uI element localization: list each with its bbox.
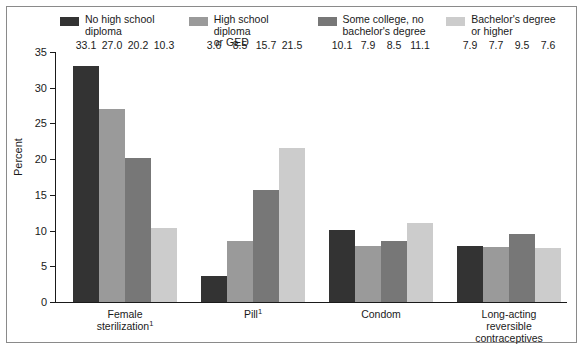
bar-wrap: 21.5 [279, 52, 305, 302]
legend-item-label: No high school diploma [85, 14, 154, 37]
bar-value-label: 10.3 [154, 39, 174, 51]
y-tick-label: 35 [35, 46, 47, 58]
bar-value-label: 8.5 [387, 39, 402, 51]
y-tick-mark [50, 231, 55, 232]
legend-swatch-icon [189, 17, 208, 26]
y-tick-mark [50, 52, 55, 53]
bar-wrap: 33.1 [73, 52, 99, 302]
y-tick-mark [50, 266, 55, 267]
x-axis-group-label: Pill1 [244, 308, 262, 320]
bar-value-label: 10.1 [332, 39, 352, 51]
bar-group-female-sterilization: 33.1 27.0 20.2 10.3 Female sterilization… [73, 52, 177, 302]
bar[interactable] [227, 241, 253, 302]
bar-group-bars: 33.1 27.0 20.2 10.3 [73, 52, 177, 302]
bar-wrap: 7.6 [535, 52, 561, 302]
y-tick-label: 15 [35, 189, 47, 201]
bar-value-label: 27.0 [102, 39, 122, 51]
bar[interactable] [99, 109, 125, 302]
bar-group-pill: 3.6 8.5 15.7 21.5 Pill1 [201, 52, 305, 302]
bar-wrap: 7.9 [355, 52, 381, 302]
x-axis-group-label: Condom [361, 308, 401, 320]
y-tick-label: 5 [41, 260, 47, 272]
bar-group-bars: 3.6 8.5 15.7 21.5 [201, 52, 305, 302]
bar-wrap: 10.1 [329, 52, 355, 302]
bar-value-label: 7.9 [361, 39, 376, 51]
bar-group-condom: 10.1 7.9 8.5 11.1 Condom [329, 52, 433, 302]
bar[interactable] [535, 248, 561, 302]
chart-figure: No high school diploma High school diplo… [0, 0, 585, 350]
legend-item-label: Some college, no bachelor's degree [343, 14, 426, 37]
y-tick-label: 20 [35, 153, 47, 165]
bar-value-label: 33.1 [76, 39, 96, 51]
bar[interactable] [457, 246, 483, 302]
y-tick-label: 10 [35, 225, 47, 237]
bar-group-bars: 10.1 7.9 8.5 11.1 [329, 52, 433, 302]
bar-value-label: 3.6 [207, 39, 222, 51]
bar[interactable] [509, 234, 535, 302]
plot-area: 35 30 25 20 15 10 5 0 [55, 52, 567, 302]
bar-wrap: 7.7 [483, 52, 509, 302]
y-tick-mark [50, 123, 55, 124]
bar-wrap: 15.7 [253, 52, 279, 302]
bar[interactable] [329, 230, 355, 302]
bar-wrap: 7.9 [457, 52, 483, 302]
bar-value-label: 11.1 [410, 39, 430, 51]
bar[interactable] [125, 158, 151, 302]
legend-item-label: Bachelor's degree or higher [471, 14, 555, 37]
y-tick-label: 0 [41, 296, 47, 308]
bar-value-label: 9.5 [515, 39, 530, 51]
bar[interactable] [381, 241, 407, 302]
legend-swatch-icon [318, 17, 337, 26]
bar[interactable] [151, 228, 177, 302]
bar-wrap: 3.6 [201, 52, 227, 302]
bar-wrap: 8.5 [227, 52, 253, 302]
x-axis-line [55, 302, 567, 303]
y-tick-label: 25 [35, 117, 47, 129]
y-tick-mark [50, 159, 55, 160]
legend-item-some-college-no-bachelors-degree: Some college, no bachelor's degree [318, 14, 436, 37]
bar[interactable] [483, 247, 509, 302]
legend-swatch-icon [446, 17, 465, 26]
bar-value-label: 21.5 [282, 39, 302, 51]
bar[interactable] [407, 223, 433, 302]
bar-value-label: 7.9 [463, 39, 478, 51]
legend-swatch-icon [60, 17, 79, 26]
bar-group-long-acting-reversible-contraceptives: 7.9 7.7 9.5 7.6 Long-acting reversible c… [457, 52, 561, 302]
footnote-marker: 1 [258, 307, 262, 316]
footnote-marker: 1 [149, 319, 153, 328]
bar-wrap: 9.5 [509, 52, 535, 302]
bar-value-label: 7.7 [489, 39, 504, 51]
bar-value-label: 7.6 [541, 39, 556, 51]
bar[interactable] [73, 66, 99, 302]
legend-item-bachelors-degree-or-higher: Bachelor's degree or higher [446, 14, 564, 37]
bar-wrap: 11.1 [407, 52, 433, 302]
bar[interactable] [201, 276, 227, 302]
legend-item-no-high-school-diploma: No high school diploma [60, 14, 178, 37]
bar-wrap: 27.0 [99, 52, 125, 302]
y-tick-label: 30 [35, 82, 47, 94]
y-tick-mark [50, 302, 55, 303]
y-tick-mark [50, 88, 55, 89]
bar-wrap: 20.2 [125, 52, 151, 302]
bar[interactable] [355, 246, 381, 302]
bar-value-label: 20.2 [128, 39, 148, 51]
x-axis-group-label: Long-acting reversible contraceptives [475, 308, 543, 344]
bar-wrap: 8.5 [381, 52, 407, 302]
bar[interactable] [279, 148, 305, 302]
y-tick-mark [50, 195, 55, 196]
bar-wrap: 10.3 [151, 52, 177, 302]
bar-value-label: 15.7 [256, 39, 276, 51]
bar-group-bars: 7.9 7.7 9.5 7.6 [457, 52, 561, 302]
bar-value-label: 8.5 [233, 39, 248, 51]
y-axis-title: Percent [12, 138, 24, 176]
bar[interactable] [253, 190, 279, 302]
x-axis-group-label: Female sterilization1 [97, 308, 154, 332]
y-axis-line [55, 52, 56, 302]
